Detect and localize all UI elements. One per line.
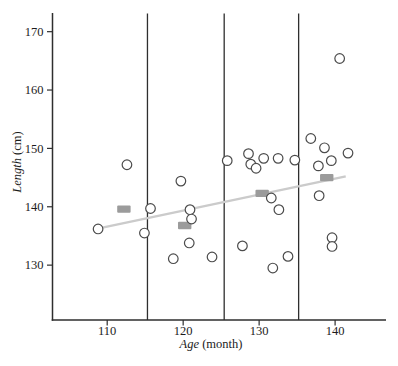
data-point-circle — [327, 156, 337, 166]
data-point-circle — [184, 238, 194, 248]
group-mean-square — [117, 205, 130, 212]
data-point-circle — [274, 205, 284, 215]
data-point-circle — [244, 149, 254, 159]
data-point-circle — [259, 154, 269, 164]
scatter-plot: 130140150160170110120130140Age (month)Le… — [0, 0, 398, 366]
data-point-circle — [207, 252, 217, 262]
data-point-circle — [140, 228, 150, 238]
data-point-circle — [290, 155, 300, 165]
data-point-circle — [283, 252, 293, 262]
data-point-circle — [343, 148, 353, 158]
data-point-circle — [335, 54, 345, 64]
data-point-circle — [314, 191, 324, 201]
y-tick-label: 160 — [25, 83, 44, 97]
y-tick-label: 130 — [25, 258, 44, 272]
data-point-circle — [314, 161, 324, 171]
y-tick-label: 140 — [25, 200, 44, 214]
data-point-circle — [268, 263, 278, 273]
data-point-circle — [93, 224, 103, 234]
trend-line — [99, 176, 346, 228]
x-axis-label: Age (month) — [179, 337, 243, 351]
data-point-circle — [222, 156, 232, 166]
data-point-circle — [176, 176, 186, 186]
data-point-circle — [273, 154, 283, 164]
data-point-circle — [320, 143, 330, 153]
data-point-circle — [122, 160, 132, 170]
data-point-circle — [238, 241, 248, 251]
group-mean-square — [320, 174, 333, 181]
scatter-plot-canvas: 130140150160170110120130140Age (month)Le… — [0, 0, 398, 366]
data-point-circle — [187, 214, 197, 224]
data-point-circle — [168, 254, 178, 264]
y-tick-label: 170 — [25, 25, 44, 39]
x-tick-label: 110 — [98, 324, 116, 338]
y-axis-label: Length (cm) — [10, 131, 24, 193]
data-point-circle — [251, 163, 261, 173]
data-point-circle — [266, 193, 276, 203]
y-tick-label: 150 — [25, 142, 44, 156]
x-tick-label: 120 — [174, 324, 193, 338]
data-point-circle — [327, 242, 337, 252]
x-tick-label: 130 — [250, 324, 269, 338]
data-point-circle — [306, 134, 316, 144]
data-point-circle — [146, 204, 156, 214]
data-point-circle — [185, 205, 195, 215]
x-tick-label: 140 — [326, 324, 345, 338]
